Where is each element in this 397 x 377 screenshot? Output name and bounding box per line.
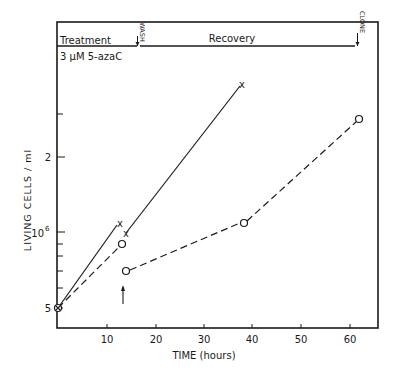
x-tick-60: 60 xyxy=(344,334,357,345)
y-tick-10-exponent: 6 xyxy=(45,225,50,233)
x-marker: x xyxy=(123,228,129,239)
y-axis-ticks xyxy=(57,114,65,308)
recovery-label: Recovery xyxy=(209,33,255,44)
drug-label: 3 µM 5-azaC xyxy=(60,51,122,62)
y-tick-5: 5 xyxy=(45,303,51,314)
x-axis-label: TIME (hours) xyxy=(171,350,235,361)
o-marker xyxy=(123,268,130,275)
x-tick-50: 50 xyxy=(295,334,308,345)
growth-chart: Treatment 3 µM 5-azaC Recovery WASH CLON… xyxy=(0,0,397,377)
x-tick-40: 40 xyxy=(246,334,259,345)
up-arrow-icon xyxy=(121,285,125,304)
x-tick-30: 30 xyxy=(198,334,211,345)
y-tick-2: 2 xyxy=(45,152,51,163)
y-axis-label: LIVING CELLS / ml xyxy=(22,149,33,251)
x-tick-10: 10 xyxy=(101,334,114,345)
series-control: x x x xyxy=(58,79,245,308)
series-treated xyxy=(58,116,363,309)
treatment-label: Treatment xyxy=(59,35,111,46)
x-marker: x xyxy=(239,79,245,90)
origin-marker xyxy=(55,305,62,312)
x-tick-20: 20 xyxy=(150,334,163,345)
o-marker xyxy=(356,116,363,123)
clone-label: CLONE xyxy=(358,11,366,33)
o-marker xyxy=(241,220,248,227)
wash-label: WASH xyxy=(138,22,146,42)
y-tick-10: 10 xyxy=(31,228,44,239)
plot-frame xyxy=(57,22,378,328)
clone-arrow-icon xyxy=(356,42,360,46)
o-marker xyxy=(119,241,126,248)
